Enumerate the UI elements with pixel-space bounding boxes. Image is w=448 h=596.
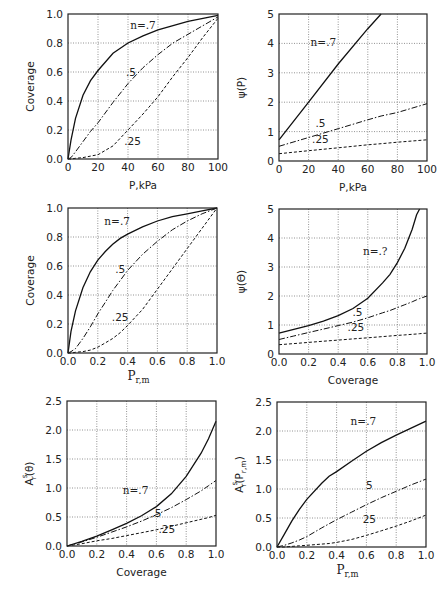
curve-label: .5 — [315, 117, 325, 129]
x-tick-label: 1.0 — [418, 549, 435, 561]
y-axis-label: Asr(Pr,m) — [230, 456, 248, 493]
x-tick-label: 0.8 — [178, 548, 195, 560]
x-tick-label: 0 — [65, 161, 72, 173]
y-tick-label: 5 — [267, 8, 274, 20]
chart-panel-p4: 0.00.20.40.60.81.0012345Coverageψ(Θ)n=.?… — [235, 203, 435, 386]
y-tick-label: 1.0 — [46, 202, 63, 214]
x-tick-label: 40 — [332, 163, 345, 175]
y-tick-label: 0.2 — [46, 124, 63, 136]
x-axis-label: Pr,m — [337, 563, 359, 579]
x-tick-label: 80 — [391, 163, 404, 175]
curve-label: 5 — [366, 479, 373, 491]
x-tick-label: 0.4 — [330, 356, 347, 368]
chart-panel-p3: 0.00.20.40.60.81.00.00.20.40.60.81.0Pr,m… — [24, 202, 225, 385]
chart-panel-p6: 0.00.20.40.60.81.00.00.51.01.52.02.5Pr,m… — [230, 396, 434, 579]
y-tick-label: 3 — [267, 261, 274, 273]
y-tick-label: 0.2 — [46, 318, 63, 330]
y-tick-label: 0 — [267, 348, 274, 360]
y-axis-label: Coverage — [24, 61, 36, 111]
x-axis-label: P,kPa — [129, 179, 157, 191]
y-tick-label: 0.5 — [45, 511, 62, 523]
curve-label: .25 — [312, 133, 329, 145]
series-line-n05 — [279, 104, 427, 147]
figure-six-panel: 0204060801000.00.20.40.60.81.0P,kPaCover… — [0, 0, 448, 596]
grid-lines — [67, 401, 216, 546]
y-tick-label: 0.4 — [46, 289, 63, 301]
y-tick-label: 1.0 — [255, 483, 272, 495]
curve-label: .5 — [151, 507, 161, 519]
y-axis-label: Asr(θ) — [20, 462, 38, 486]
chart-panel-p1: 0204060801000.00.20.40.60.81.0P,kPaCover… — [24, 8, 228, 191]
x-tick-label: 60 — [361, 163, 374, 175]
x-tick-label: 0.8 — [179, 355, 196, 367]
series-line-n025 — [67, 515, 216, 546]
plot-frame — [68, 208, 217, 353]
y-tick-label: 1.5 — [45, 453, 62, 465]
x-tick-label: 0.6 — [359, 356, 376, 368]
x-axis-label: Coverage — [328, 374, 378, 386]
x-tick-label: 1.0 — [209, 355, 226, 367]
grid-lines — [279, 14, 427, 161]
y-tick-label: 1 — [267, 126, 274, 138]
series-line-n07 — [279, 14, 381, 140]
x-tick-label: 20 — [91, 161, 104, 173]
figure-svg: 0204060801000.00.20.40.60.81.0P,kPaCover… — [0, 0, 448, 596]
curve-label: n=.7 — [311, 36, 337, 48]
y-tick-label: 2.0 — [255, 425, 272, 437]
curve-label: n=.7 — [104, 215, 130, 227]
y-tick-label: 2.0 — [45, 424, 62, 436]
series-line-n07 — [68, 208, 217, 353]
x-tick-label: 0.6 — [148, 548, 165, 560]
x-tick-label: 0.2 — [89, 355, 106, 367]
y-tick-label: 1.0 — [46, 8, 63, 20]
x-axis-label: Pr,m — [128, 369, 150, 385]
curve-label: n=.? — [363, 245, 388, 257]
x-tick-label: 0.2 — [298, 549, 315, 561]
y-tick-label: 0.8 — [46, 231, 63, 243]
y-tick-label: 2.5 — [255, 396, 272, 408]
x-axis-label: Coverage — [116, 566, 166, 578]
y-tick-label: 4 — [267, 37, 274, 49]
x-tick-label: 0.2 — [300, 356, 317, 368]
curve-label: 25 — [363, 513, 376, 525]
x-tick-label: 0.2 — [88, 548, 105, 560]
series-line-n05 — [68, 208, 217, 353]
plot-frame — [279, 14, 427, 161]
y-tick-label: 4 — [267, 232, 274, 244]
y-tick-label: 0.0 — [46, 153, 63, 165]
series-line-n05 — [277, 479, 426, 547]
y-axis-label: ψ(P) — [235, 77, 247, 98]
y-tick-label: 0.0 — [45, 540, 62, 552]
y-tick-label: 0.5 — [255, 512, 272, 524]
series-line-n07 — [279, 209, 420, 333]
x-tick-label: 100 — [417, 163, 437, 175]
y-tick-label: 1 — [267, 319, 274, 331]
y-axis-label: ψ(Θ) — [235, 270, 247, 293]
y-tick-label: 2 — [267, 96, 274, 108]
x-tick-label: 0.8 — [389, 356, 406, 368]
x-tick-label: 60 — [151, 161, 164, 173]
y-tick-label: 0.6 — [46, 66, 63, 78]
chart-panel-p2: 020406080100012345P,kPaψ(P)n=.7.5.25 — [235, 8, 437, 193]
x-tick-label: 0.4 — [118, 548, 135, 560]
x-tick-label: 40 — [121, 161, 134, 173]
x-tick-label: 0.4 — [328, 549, 345, 561]
y-tick-label: 0.6 — [46, 260, 63, 272]
y-tick-label: 0.8 — [46, 37, 63, 49]
y-tick-label: 0.0 — [46, 347, 63, 359]
series-line-n025 — [279, 333, 427, 345]
y-tick-label: 1.5 — [255, 454, 272, 466]
y-tick-label: 0 — [267, 155, 274, 167]
x-axis-label: P,kPa — [339, 181, 367, 193]
series-line-n025 — [68, 208, 217, 353]
x-tick-label: 0.8 — [388, 549, 405, 561]
x-tick-label: 100 — [208, 161, 228, 173]
curve-label: .5 — [115, 263, 125, 275]
series-line-n025 — [277, 515, 426, 547]
x-tick-label: 1.0 — [419, 356, 436, 368]
y-tick-label: 0.4 — [46, 95, 63, 107]
y-tick-label: 2 — [267, 290, 274, 302]
grid-lines — [68, 208, 217, 353]
y-tick-label: 5 — [267, 203, 274, 215]
curve-label: .25 — [112, 311, 129, 323]
